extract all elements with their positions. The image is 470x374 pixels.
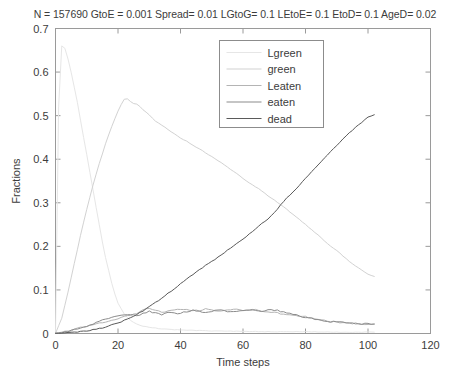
y-tick-label: 0.2 (33, 240, 48, 252)
legend-label-green: green (268, 63, 296, 75)
y-tick-label: 0.1 (33, 284, 48, 296)
y-tick-label: 0.5 (33, 110, 48, 122)
legend-label-eaten: eaten (268, 96, 296, 108)
x-tick-label: 100 (359, 339, 377, 351)
y-tick-label: 0.3 (33, 197, 48, 209)
series-line-dead (56, 115, 375, 333)
x-tick-label: 120 (421, 339, 439, 351)
legend-label-dead: dead (268, 113, 292, 125)
x-tick-label: 60 (237, 339, 249, 351)
figure-canvas: N = 157690 GtoE = 0.001 Spread= 0.01 LGt… (0, 0, 470, 374)
y-axis-title: Fractions (10, 158, 22, 204)
x-tick-label: 80 (299, 339, 311, 351)
legend-label-leaten: Leaten (268, 80, 302, 92)
x-tick-label: 0 (52, 339, 58, 351)
x-axis-title: Time steps (216, 356, 270, 368)
series-line-green (56, 99, 375, 334)
y-tick-label: 0.4 (33, 153, 48, 165)
y-tick-label: 0.6 (33, 66, 48, 78)
x-tick-label: 20 (112, 339, 124, 351)
series-line-lgreen (56, 46, 375, 334)
y-tick-label: 0.7 (33, 23, 48, 35)
x-tick-label: 40 (174, 339, 186, 351)
legend-label-lgreen: Lgreen (268, 47, 302, 59)
series-line-leaten (56, 308, 375, 333)
y-tick-label: 0 (42, 328, 48, 340)
plot-area: 02040608010012000.10.20.30.40.50.60.7Tim… (0, 0, 470, 374)
series-line-eaten (56, 309, 375, 333)
